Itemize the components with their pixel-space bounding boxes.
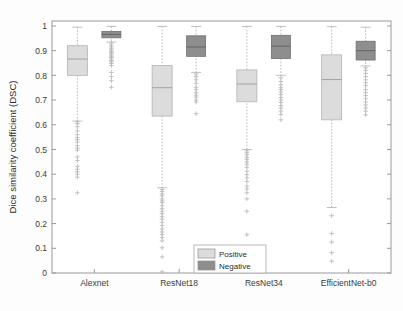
y-tick-label: 1: [42, 21, 47, 31]
legend-label-positive: Positive: [219, 250, 248, 259]
y-tick-label: 0.5: [35, 145, 47, 155]
chart-svg: 00.10.20.30.40.50.60.70.80.91Dice simila…: [0, 0, 403, 311]
y-tick-label: 0.7: [35, 95, 47, 105]
box: [237, 70, 257, 102]
y-tick-label: 0.4: [35, 169, 47, 179]
y-tick-label: 0.8: [35, 71, 47, 81]
box: [187, 36, 206, 57]
x-tick-label-resnet18: ResNet18: [160, 278, 198, 288]
box: [271, 35, 290, 58]
legend-swatch-negative: [198, 261, 215, 270]
y-tick-label: 0.1: [35, 243, 47, 253]
box-plot-figure: 00.10.20.30.40.50.60.70.80.91Dice simila…: [0, 0, 403, 311]
y-tick-label: 0.3: [35, 194, 47, 204]
x-tick-label-resnet34: ResNet34: [245, 278, 283, 288]
legend-label-negative: Negative: [219, 262, 251, 271]
y-tick-label: 0: [42, 268, 47, 278]
y-axis-label: Dice similarity coefficient (DSC): [7, 81, 18, 214]
y-tick-label: 0.9: [35, 46, 47, 56]
box: [322, 55, 342, 120]
y-tick-label: 0.6: [35, 120, 47, 130]
legend-swatch-positive: [198, 249, 215, 258]
y-tick-label: 0.2: [35, 219, 47, 229]
x-tick-label-efficientnet-b0: EfficientNet-b0: [321, 278, 377, 288]
box: [67, 46, 87, 76]
x-tick-label-alexnet: Alexnet: [80, 278, 109, 288]
box: [152, 65, 172, 116]
